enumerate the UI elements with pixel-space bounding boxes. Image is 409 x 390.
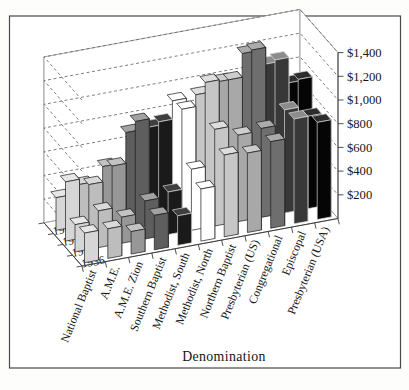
y-tick-label-1000: $1,000	[347, 93, 382, 107]
bar-front-face	[131, 229, 145, 254]
bar-front-face	[178, 213, 192, 245]
y-tick-label-600: $600	[347, 141, 372, 155]
y-tick-label-800: $800	[347, 117, 372, 131]
y-tick-label-400: $400	[347, 164, 372, 178]
bar-front-face	[85, 231, 99, 263]
bar-front-face	[201, 186, 215, 241]
y-tick-label-1200: $1,200	[347, 70, 382, 84]
bar-front-face	[108, 226, 122, 258]
x-axis-title: Denomination	[182, 349, 266, 364]
bar-front-face	[271, 139, 285, 228]
bar-front-face	[224, 152, 238, 236]
bar-front-face	[317, 120, 331, 220]
y-tick-label-200: $200	[347, 188, 372, 202]
scanned-chart-page: $200$400$600$800$1,000$1,200$1,400190619…	[0, 0, 409, 390]
ministers-salary-3d-bar-chart: $200$400$600$800$1,000$1,200$1,400190619…	[0, 0, 409, 390]
bar-front-face	[154, 213, 168, 250]
bar-front-face	[247, 151, 261, 233]
y-tick-label-1400: $1,400	[347, 46, 382, 60]
bar-front-face	[294, 116, 308, 223]
